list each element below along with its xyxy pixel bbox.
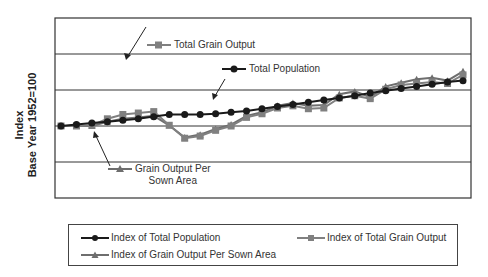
annotation-text: Total Grain Output (174, 39, 255, 51)
legend-label: Index of Total Population (111, 232, 220, 243)
square-marker-icon (147, 40, 171, 50)
circle-marker-icon (81, 233, 109, 243)
y-axis-label-line2: Base Year 1952=100 (26, 73, 39, 178)
data-point (73, 121, 80, 128)
data-point (320, 97, 327, 104)
data-point (243, 114, 250, 121)
data-point (150, 113, 157, 120)
data-point (351, 92, 358, 99)
annotation-grain-per-sown-area: Grain Output Per Sown Area (108, 163, 211, 187)
data-point (367, 89, 374, 96)
data-point (398, 85, 405, 92)
data-point (259, 105, 266, 112)
annotation-text-line2: Sown Area (135, 175, 211, 187)
legend-label: Index of Total Grain Output (327, 232, 446, 243)
data-point (212, 127, 219, 134)
annotation-text-line1: Grain Output Per (135, 163, 211, 175)
data-point (289, 101, 296, 108)
legend-label: Index of Grain Output Per Sown Area (111, 249, 276, 260)
data-point (305, 105, 312, 112)
data-point (166, 111, 173, 118)
data-point (336, 94, 343, 101)
legend-item-grain-output: Index of Total Grain Output (297, 232, 446, 243)
data-point (320, 105, 327, 112)
y-axis-label-line1: Index (13, 73, 26, 178)
data-point (58, 123, 65, 130)
data-point (181, 135, 188, 142)
data-point (382, 87, 389, 94)
data-point (119, 117, 126, 124)
data-point (460, 77, 467, 84)
data-point (135, 115, 142, 122)
data-point (429, 81, 436, 88)
series-lines (58, 68, 467, 142)
data-point (243, 107, 250, 114)
data-point (197, 133, 204, 140)
data-point (212, 110, 219, 117)
triangle-marker-icon (81, 250, 109, 260)
data-point (228, 123, 235, 130)
square-marker-icon (297, 233, 325, 243)
legend-item-population: Index of Total Population (81, 232, 220, 243)
data-point (413, 83, 420, 90)
data-point (444, 79, 451, 86)
chart-legend: Index of Total Population Index of Total… (68, 224, 458, 266)
annotation-total-grain-output: Total Grain Output (147, 39, 255, 51)
data-point (197, 111, 204, 118)
triangle-marker-icon (108, 164, 132, 174)
data-point (181, 111, 188, 118)
series-triangle (58, 68, 467, 141)
annotation-text: Total Population (249, 63, 320, 75)
data-point (166, 122, 173, 129)
y-axis-label: Index Base Year 1952=100 (6, 50, 46, 200)
legend-item-grain-per-area: Index of Grain Output Per Sown Area (81, 249, 276, 260)
data-point (88, 120, 95, 127)
circle-marker-icon (222, 64, 246, 74)
data-point (104, 118, 111, 125)
data-point (228, 109, 235, 116)
data-point (274, 103, 281, 110)
data-point (305, 99, 312, 106)
annotation-total-population: Total Population (222, 63, 320, 75)
